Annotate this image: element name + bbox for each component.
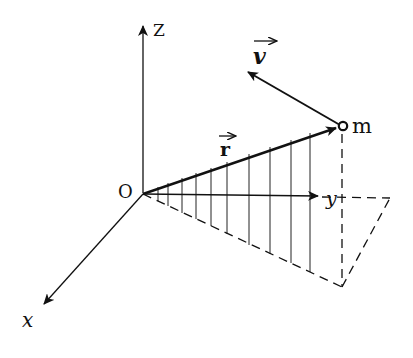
z-axis-label: Z [153, 20, 165, 40]
mass-point [339, 122, 347, 130]
position-vector-label: r [220, 138, 231, 160]
velocity-vector-v [248, 72, 340, 125]
origin-label: O [118, 181, 133, 202]
x-axis-label: x [22, 308, 33, 332]
projection-lines [143, 134, 390, 287]
mass-label: m [352, 114, 372, 138]
hatched-area [158, 133, 310, 272]
velocity-vector-label: v [253, 43, 266, 69]
position-vector-r [143, 128, 336, 194]
y-axis-label: y [325, 187, 337, 209]
y-axis [143, 194, 318, 196]
vector-diagram: Z y x O r v m [0, 0, 413, 358]
x-axis [44, 194, 143, 304]
